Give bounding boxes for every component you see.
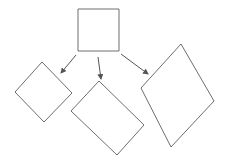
diagram-nodes <box>15 9 214 155</box>
child-middle-rectangle <box>71 81 144 155</box>
arrow-parent-square-to-child-right-rhombus <box>121 54 148 74</box>
diagram-edges <box>61 54 148 79</box>
diagram-canvas <box>0 0 225 167</box>
arrow-parent-square-to-child-left-diamond <box>61 55 76 73</box>
child-left-diamond <box>15 62 72 122</box>
child-right-rhombus <box>141 44 214 147</box>
parent-square <box>78 9 119 51</box>
arrow-parent-square-to-child-middle-rectangle <box>98 57 101 79</box>
